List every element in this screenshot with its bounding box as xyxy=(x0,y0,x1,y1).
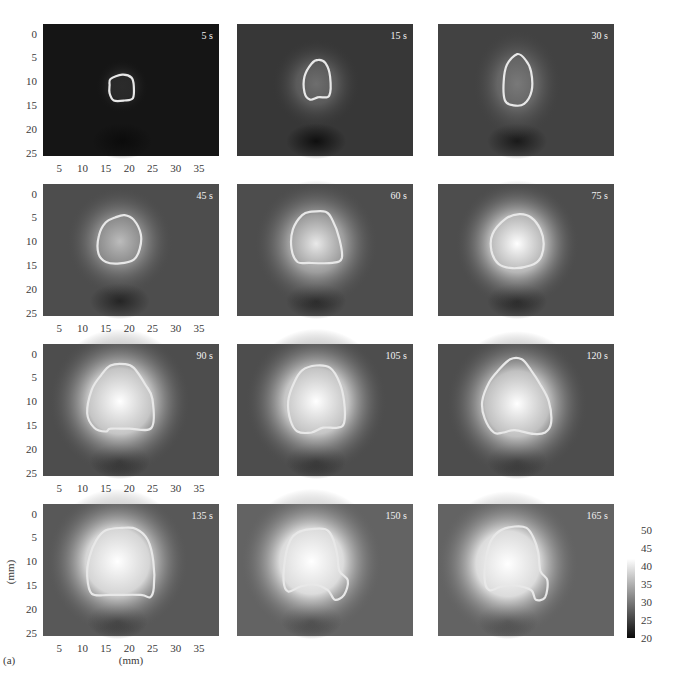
hot-spot xyxy=(437,491,579,636)
cool-region xyxy=(92,123,152,159)
colorbar-gradient-bar xyxy=(627,530,635,638)
x-tick-label: 15 xyxy=(100,482,112,494)
x-tick-label: 20 xyxy=(124,322,136,334)
time-label: 60 s xyxy=(391,190,408,201)
hot-spot xyxy=(254,180,378,307)
time-label: 45 s xyxy=(197,190,214,201)
thermal-panel: 90 s xyxy=(43,329,219,479)
y-tick-label: 20 xyxy=(26,283,38,295)
y-tick-label: 0 xyxy=(32,508,38,520)
colorbar-tick-label: 45 xyxy=(641,542,653,554)
thermal-panel: 5 s xyxy=(43,24,219,159)
x-axis-label: (mm) xyxy=(119,654,144,667)
y-tick-label: 25 xyxy=(26,627,38,639)
time-label: 75 s xyxy=(592,190,609,201)
x-tick-label: 10 xyxy=(77,642,89,654)
x-tick-label: 5 xyxy=(57,642,63,654)
hot-spot xyxy=(67,187,173,296)
y-tick-label: 20 xyxy=(26,123,38,135)
time-label: 135 s xyxy=(192,510,214,521)
colorbar-tick-label: 30 xyxy=(641,596,653,608)
thermal-panel: 120 s xyxy=(438,331,614,479)
y-tick-label: 20 xyxy=(26,603,38,615)
x-tick-label: 20 xyxy=(124,642,136,654)
thermal-panel: 135 s xyxy=(43,489,219,639)
thermal-image-series-figure: 5 s15 s30 s45 s60 s75 s90 s105 s120 s135… xyxy=(0,0,676,684)
y-tick-label: 15 xyxy=(26,259,38,271)
x-tick-label: 35 xyxy=(193,162,205,174)
hot-spot xyxy=(272,38,360,129)
colorbar-tick-label: 20 xyxy=(641,632,653,644)
time-label: 90 s xyxy=(197,350,214,361)
colorbar: 50454035302520 xyxy=(627,524,653,644)
y-axis-label: (mm) xyxy=(4,559,17,584)
y-tick-label: 15 xyxy=(26,579,38,591)
y-tick-label: 10 xyxy=(26,235,38,247)
x-tick-label: 5 xyxy=(57,482,63,494)
thermal-panel: 165 s xyxy=(437,491,614,639)
y-tick-label: 5 xyxy=(32,531,38,543)
time-label: 5 s xyxy=(202,30,214,41)
thermal-panel: 105 s xyxy=(237,329,413,479)
hot-spot xyxy=(96,59,149,114)
y-tick-label: 5 xyxy=(32,51,38,63)
y-tick-label: 10 xyxy=(26,395,38,407)
x-tick-label: 35 xyxy=(193,642,205,654)
colorbar-tick-label: 40 xyxy=(641,560,653,572)
x-tick-label: 5 xyxy=(57,162,63,174)
x-tick-label: 30 xyxy=(170,482,182,494)
colorbar-tick-label: 35 xyxy=(641,578,653,590)
x-tick-label: 30 xyxy=(170,322,182,334)
hot-spot xyxy=(455,180,579,307)
thermal-panel: 15 s xyxy=(237,24,413,159)
hot-spot xyxy=(245,329,387,474)
colorbar-ticks: 50454035302520 xyxy=(641,524,653,644)
y-tick-label: 20 xyxy=(26,443,38,455)
x-tick-label: 15 xyxy=(100,322,112,334)
x-tick-label: 10 xyxy=(77,162,89,174)
x-tick-label: 30 xyxy=(170,162,182,174)
hot-spot xyxy=(473,29,561,138)
x-tick-label: 15 xyxy=(100,642,112,654)
hot-spot xyxy=(446,331,588,476)
x-tick-label: 10 xyxy=(77,322,89,334)
x-tick-label: 35 xyxy=(193,322,205,334)
x-tick-label: 35 xyxy=(193,482,205,494)
y-tick-label: 5 xyxy=(32,211,38,223)
y-tick-label: 25 xyxy=(26,147,38,159)
y-tick-label: 25 xyxy=(26,467,38,479)
y-tick-label: 15 xyxy=(26,419,38,431)
x-tick-label: 10 xyxy=(77,482,89,494)
hot-spot xyxy=(49,329,191,474)
x-tick-label: 25 xyxy=(147,482,159,494)
y-tick-label: 25 xyxy=(26,307,38,319)
thermal-panel: 150 s xyxy=(237,489,413,639)
x-tick-label: 20 xyxy=(124,162,136,174)
time-label: 105 s xyxy=(386,350,408,361)
x-tick-label: 25 xyxy=(147,162,159,174)
panel-label: (a) xyxy=(3,654,16,667)
thermal-panel: 75 s xyxy=(438,180,614,319)
time-label: 15 s xyxy=(391,30,408,41)
thermal-panel: 30 s xyxy=(438,24,614,159)
x-tick-label: 25 xyxy=(147,322,159,334)
y-tick-label: 15 xyxy=(26,99,38,111)
x-tick-label: 30 xyxy=(170,642,182,654)
thermal-panel: 45 s xyxy=(43,184,219,319)
y-tick-label: 0 xyxy=(32,188,38,200)
x-tick-label: 20 xyxy=(124,482,136,494)
time-label: 120 s xyxy=(587,350,609,361)
colorbar-tick-label: 50 xyxy=(641,524,653,536)
y-tick-label: 5 xyxy=(32,371,38,383)
time-label: 30 s xyxy=(592,30,609,41)
colorbar-tick-label: 25 xyxy=(641,614,653,626)
time-label: 150 s xyxy=(386,510,408,521)
thermal-panel: 60 s xyxy=(237,180,413,319)
hot-spot xyxy=(47,489,189,634)
y-tick-label: 10 xyxy=(26,75,38,87)
y-tick-label: 10 xyxy=(26,555,38,567)
x-tick-label: 5 xyxy=(57,322,63,334)
hot-spot xyxy=(241,489,383,634)
time-label: 165 s xyxy=(587,510,609,521)
y-tick-label: 0 xyxy=(32,28,38,40)
